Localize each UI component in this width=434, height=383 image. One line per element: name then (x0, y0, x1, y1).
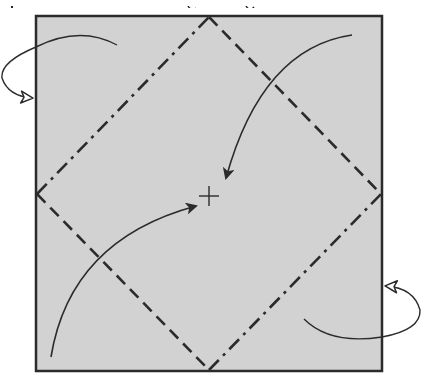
folding-diagram (0, 0, 434, 383)
